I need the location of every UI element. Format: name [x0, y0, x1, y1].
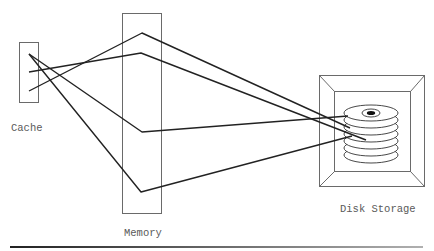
disk-spindle	[367, 111, 375, 115]
memory-box	[123, 14, 162, 214]
disk-storage-label: Disk Storage	[340, 203, 416, 215]
connection-line	[29, 53, 366, 140]
connection-line	[29, 54, 352, 192]
memory-label: Memory	[124, 227, 162, 239]
cache-label: Cache	[11, 122, 43, 134]
memory-component: Memory	[123, 14, 162, 240]
cache-box	[20, 43, 39, 103]
cache-component: Cache	[11, 43, 43, 135]
connections	[29, 33, 366, 192]
disk-storage-component: Disk Storage	[320, 76, 425, 216]
bottom-rule	[10, 246, 423, 248]
memory-hierarchy-diagram: Cache Memory Disk Storage	[0, 0, 434, 251]
